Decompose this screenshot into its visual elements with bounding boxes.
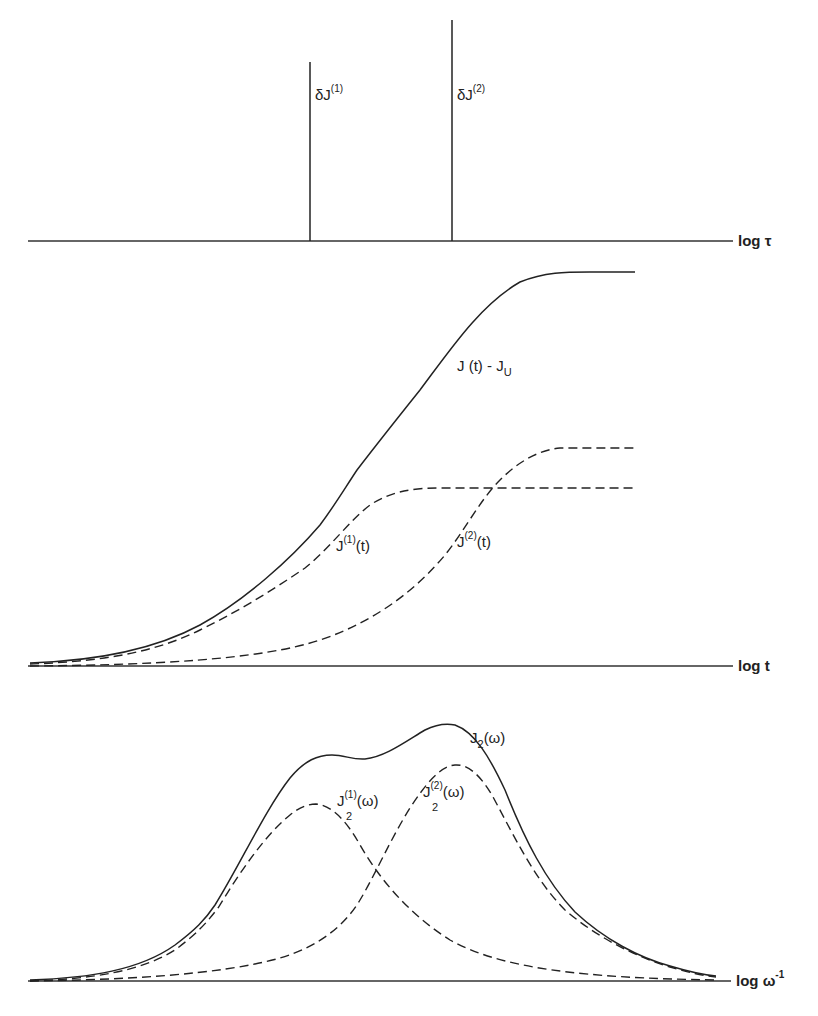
curve-total-compliance <box>30 272 635 663</box>
top-panel: log τ δJ(1) δJ(2) <box>28 20 772 249</box>
label-j1-compliance: J(1)(t) <box>336 534 370 554</box>
log-omega-inverse-axis-label: log ω-1 <box>736 969 785 989</box>
label-j1-loss-compliance-subscript: 2 <box>346 810 352 822</box>
label-j2-compliance: J(2)(t) <box>457 530 491 550</box>
spike-delta-j2-label: δJ(2) <box>457 83 485 103</box>
spike-delta-j1-label: δJ(1) <box>315 83 343 103</box>
curve-j1-compliance <box>30 488 636 664</box>
curve-j1-loss-compliance <box>30 804 716 981</box>
log-tau-axis-label: log τ <box>738 232 772 249</box>
curve-j2-compliance <box>30 448 636 666</box>
label-total-compliance: J (t) - JU <box>457 357 512 378</box>
log-t-axis-label: log t <box>738 657 770 674</box>
middle-panel: log t J (t) - JU J(1)(t) J(2)(t) <box>28 272 770 674</box>
label-j2-loss-compliance-subscript: 2 <box>432 801 438 813</box>
label-total-loss-compliance: J2(ω) <box>470 729 505 750</box>
bottom-panel: log ω-1 J2(ω) J(1)(ω) 2 J(2)(ω) 2 <box>28 724 785 989</box>
curve-total-loss-compliance <box>30 724 716 980</box>
label-j1-loss-compliance: J(1)(ω) <box>337 789 378 809</box>
label-j2-loss-compliance: J(2)(ω) <box>423 780 464 800</box>
figure: log τ δJ(1) δJ(2) log t J (t) - JU J(1)(… <box>0 0 818 1016</box>
